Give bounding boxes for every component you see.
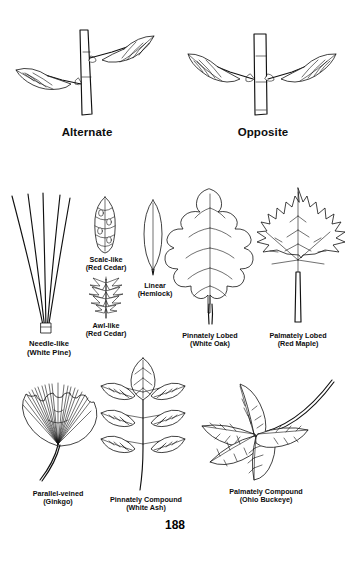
caption-palmately-lobed: Palmately Lobed (Red Maple) xyxy=(248,332,348,349)
palmately-compound-illustration xyxy=(192,372,342,482)
caption-awl-like: Awl-like (Red Cedar) xyxy=(68,322,144,339)
caption-palmately-compound-species: (Ohio Buckeye) xyxy=(204,496,328,504)
figure-scale-like xyxy=(88,196,122,254)
caption-needle-like-species: (White Pine) xyxy=(2,349,96,358)
caption-needle-like-type: Needle-like xyxy=(29,339,69,348)
caption-opposite: Opposite xyxy=(188,126,338,140)
scale-like-illustration xyxy=(88,196,122,254)
figure-linear xyxy=(140,198,166,276)
caption-opposite-label: Opposite xyxy=(238,126,289,138)
caption-scale-like-species: (Red Cedar) xyxy=(68,264,144,272)
figure-opposite xyxy=(188,22,338,122)
caption-palmately-compound: Palmately Compound (Ohio Buckeye) xyxy=(204,488,328,505)
caption-alternate-label: Alternate xyxy=(62,126,113,138)
linear-illustration xyxy=(140,198,166,276)
parallel-veined-illustration xyxy=(14,374,106,484)
page-number: 188 xyxy=(0,518,350,532)
figure-parallel-veined xyxy=(14,374,106,484)
opposite-twig-illustration xyxy=(188,22,338,122)
caption-palmately-lobed-species: (Red Maple) xyxy=(248,340,348,348)
figure-pinnately-lobed xyxy=(170,186,250,326)
figure-alternate xyxy=(12,22,162,122)
caption-parallel-veined: Parallel-veined (Ginkgo) xyxy=(6,490,110,507)
caption-awl-like-species: (Red Cedar) xyxy=(68,330,144,338)
pinnately-lobed-illustration xyxy=(170,186,250,326)
palmately-lobed-illustration xyxy=(252,186,344,326)
caption-pinnately-compound: Pinnately Compound (White Ash) xyxy=(96,496,196,513)
caption-parallel-veined-species: (Ginkgo) xyxy=(6,498,110,506)
caption-scale-like: Scale-like (Red Cedar) xyxy=(68,256,144,273)
leaf-diagram-page: Alternate Opposite xyxy=(0,0,350,566)
caption-pinnately-lobed: Pinnately Lobed (White Oak) xyxy=(162,332,258,349)
caption-needle-like: Needle-like (White Pine) xyxy=(2,340,96,358)
caption-pinnately-lobed-species: (White Oak) xyxy=(162,340,258,348)
figure-pinnately-compound xyxy=(98,352,188,492)
caption-alternate: Alternate xyxy=(12,126,162,140)
figure-palmately-compound xyxy=(192,372,342,482)
caption-pinnately-compound-species: (White Ash) xyxy=(96,504,196,512)
pinnately-compound-illustration xyxy=(98,352,188,492)
alternate-twig-illustration xyxy=(12,22,162,122)
figure-palmately-lobed xyxy=(252,186,344,326)
